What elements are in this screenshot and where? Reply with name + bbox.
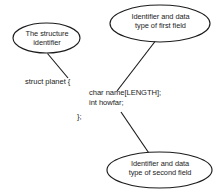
diagram-canvas: The structure identifier Identifier and … bbox=[0, 0, 224, 194]
callout-ellipse-second-field bbox=[107, 152, 212, 188]
code-line-field-second: int howfar; bbox=[89, 98, 123, 108]
leader-line-first-field bbox=[117, 42, 155, 92]
code-line-struct-close: }; bbox=[77, 112, 82, 122]
leader-line-structure-identifier bbox=[48, 54, 69, 79]
callout-ellipse-structure-identifier bbox=[13, 23, 80, 53]
code-line-field-first: char name[LENGTH]; bbox=[89, 88, 161, 98]
leader-line-second-field bbox=[121, 112, 149, 153]
code-line-struct-open: struct planet { bbox=[25, 77, 70, 87]
callout-ellipse-first-field bbox=[110, 5, 210, 42]
